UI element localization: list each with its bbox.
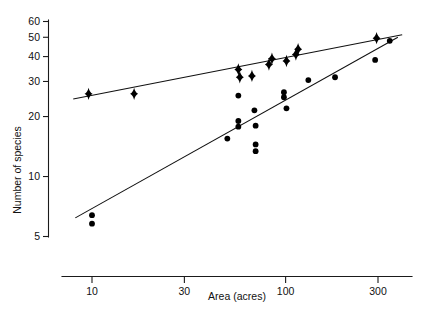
y-tick-label-5: 5 [34, 230, 40, 242]
data-point-circle [89, 221, 95, 227]
data-points-group [85, 32, 393, 227]
data-point-diamond [85, 88, 93, 100]
data-point-diamond [234, 63, 242, 75]
y-tick-label-60: 60 [28, 15, 40, 27]
data-point-diamond [130, 88, 138, 100]
y-axis: 5102030405060 Number of species [11, 15, 49, 242]
x-axis: 1030100300 Area (acres) [62, 277, 412, 303]
data-point-diamond [236, 71, 244, 83]
y-tick-label-50: 50 [28, 31, 40, 43]
data-point-circle [253, 123, 259, 129]
data-point-circle [284, 105, 290, 111]
data-point-circle [89, 212, 95, 218]
data-point-circle [387, 38, 393, 44]
figure-root: 5102030405060 Number of species 10301003… [0, 0, 430, 314]
x-tick-label-30: 30 [179, 285, 191, 297]
data-point-circle [281, 89, 287, 95]
data-point-circle [372, 57, 378, 63]
data-point-diamond [248, 70, 256, 82]
y-tick-label-20: 20 [28, 110, 40, 122]
x-axis-ticks [92, 277, 378, 284]
data-point-circle [305, 77, 311, 83]
data-point-circle [253, 148, 259, 154]
data-point-circle [332, 74, 338, 80]
data-point-circle [281, 94, 287, 100]
data-point-circle [253, 141, 259, 147]
data-point-diamond [373, 32, 381, 44]
data-point-circle [235, 124, 241, 130]
x-tick-label-100: 100 [277, 285, 295, 297]
scatter-plot: 5102030405060 Number of species 10301003… [0, 0, 430, 314]
x-tick-label-300: 300 [369, 285, 387, 297]
x-axis-title: Area (acres) [208, 290, 266, 302]
data-point-circle [235, 93, 241, 99]
x-tick-label-10: 10 [86, 285, 98, 297]
data-point-circle [252, 107, 258, 113]
data-point-circle [235, 118, 241, 124]
y-axis-ticks [43, 22, 49, 237]
series-upper-series-diamonds [85, 32, 381, 100]
y-tick-label-40: 40 [28, 50, 40, 62]
data-point-circle [224, 136, 230, 142]
y-axis-title: Number of species [11, 126, 23, 214]
y-axis-tick-labels: 5102030405060 [28, 15, 40, 242]
y-tick-label-30: 30 [28, 75, 40, 87]
y-tick-label-10: 10 [28, 170, 40, 182]
